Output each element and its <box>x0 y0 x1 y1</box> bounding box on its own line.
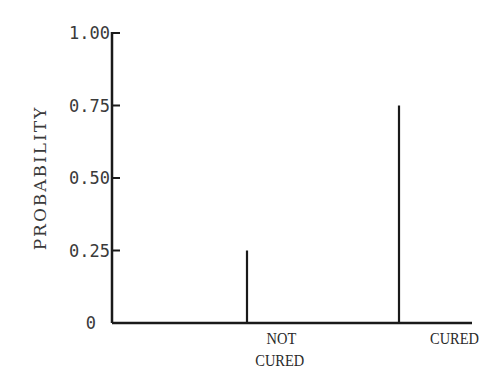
y-tick-label: 0 <box>86 313 96 333</box>
y-tick-label: 0.75 <box>69 96 110 116</box>
bars <box>247 106 399 324</box>
category-label: NOT <box>267 329 297 347</box>
category-label: CURED <box>255 351 304 369</box>
probability-chart: 00.250.500.751.00 NOTCUREDCURED PROBABIL… <box>0 0 496 389</box>
y-axis-label: PROBABILITY <box>30 106 50 251</box>
y-tick-label: 1.00 <box>69 23 110 43</box>
category-label: CURED <box>430 329 479 347</box>
y-tick-label: 0.25 <box>69 241 110 261</box>
category-labels: NOTCUREDCURED <box>255 329 479 369</box>
y-tick-label: 0.50 <box>69 168 110 188</box>
